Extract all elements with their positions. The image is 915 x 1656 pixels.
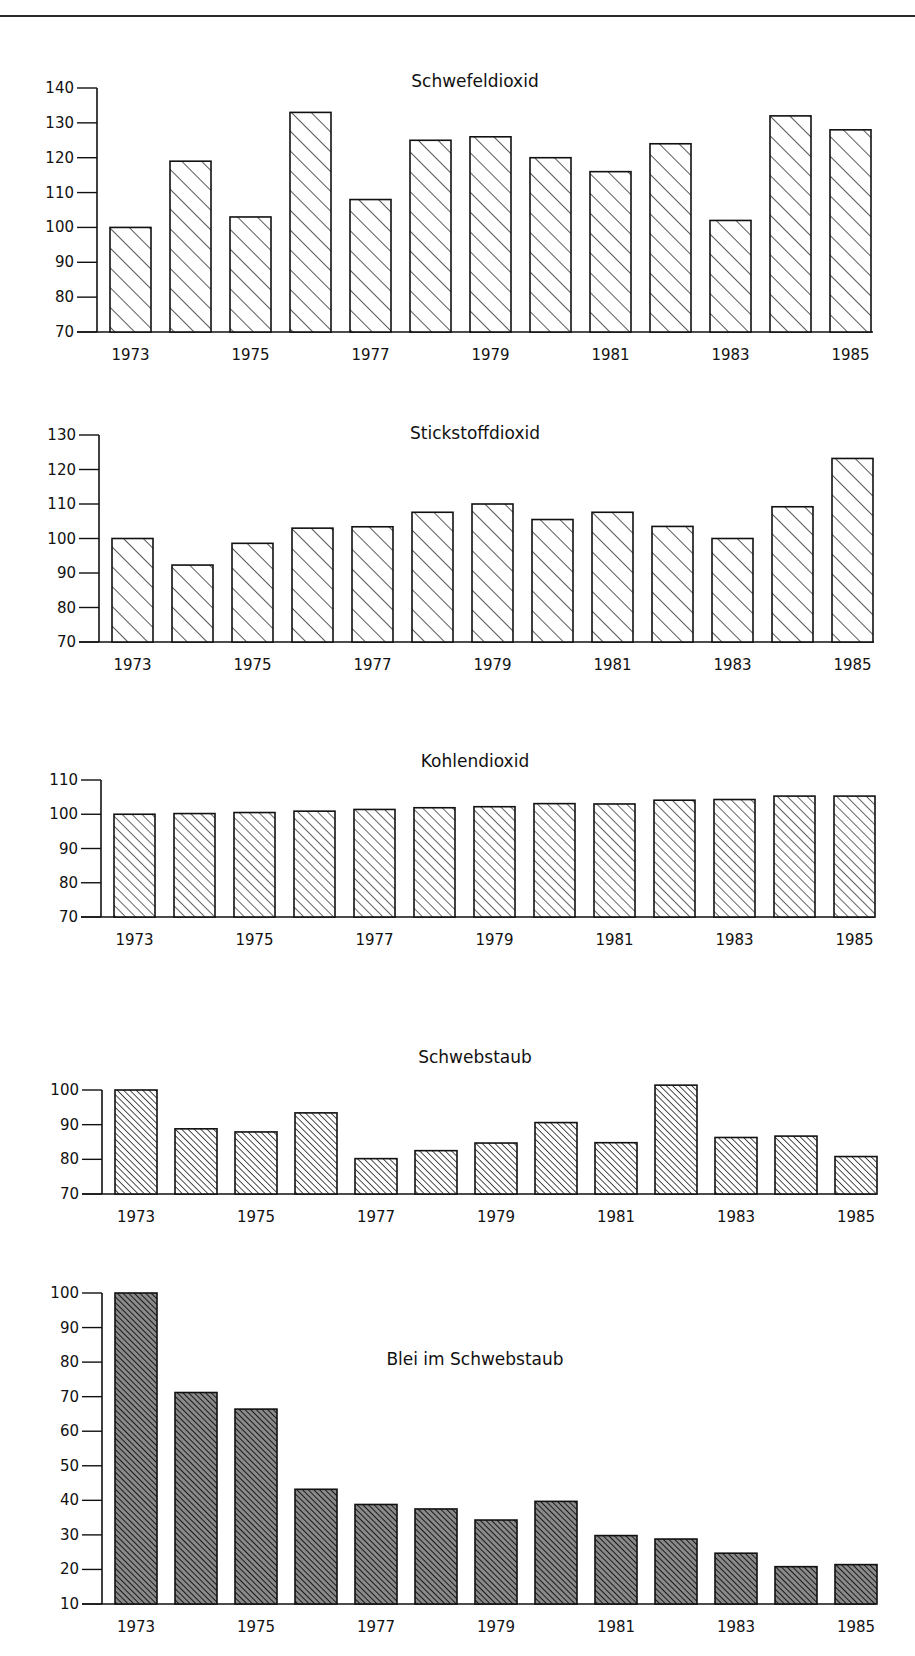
bar-1983 [710,220,751,332]
bar-1974 [175,1393,217,1604]
bar-1977 [355,1159,397,1194]
bar-1973 [112,539,153,643]
x-tick-label: 1983 [717,1618,755,1636]
y-tick-label: 70 [60,1185,79,1203]
x-tick-label: 1975 [233,656,271,674]
y-tick-label: 100 [45,218,74,236]
y-tick-label: 40 [60,1491,79,1509]
bar-1983 [714,800,755,917]
y-tick-label: 90 [59,840,78,858]
y-tick-label: 100 [47,530,76,548]
bar-1984 [770,116,811,332]
x-tick-label: 1983 [715,931,753,949]
y-tick-label: 130 [45,114,74,132]
y-tick-label: 70 [55,323,74,341]
bar-1979 [472,504,513,642]
bar-1983 [715,1553,757,1604]
bar-1979 [474,807,515,917]
bar-1979 [475,1520,517,1604]
chart-schwebstaub: Schwebstaub70809010019731975197719791981… [50,1047,877,1226]
x-tick-label: 1977 [357,1618,395,1636]
bar-1974 [170,161,211,332]
y-tick-label: 60 [60,1422,79,1440]
bar-1976 [295,1489,337,1604]
bar-1982 [650,144,691,332]
y-tick-label: 50 [60,1457,79,1475]
x-tick-label: 1977 [355,931,393,949]
bar-1982 [654,800,695,917]
bar-1985 [835,1565,877,1604]
x-tick-label: 1983 [717,1208,755,1226]
x-tick-label: 1973 [117,1208,155,1226]
x-tick-label: 1985 [837,1618,875,1636]
x-tick-label: 1979 [477,1208,515,1226]
x-tick-label: 1979 [473,656,511,674]
bar-1980 [534,804,575,917]
bar-1982 [655,1539,697,1604]
y-tick-label: 110 [45,184,74,202]
bar-1981 [595,1143,637,1194]
y-tick-label: 80 [59,874,78,892]
y-tick-label: 130 [47,426,76,444]
y-tick-label: 90 [60,1319,79,1337]
bar-1978 [414,808,455,917]
chart-title: Kohlendioxid [421,751,529,771]
bar-1976 [292,528,333,642]
bar-1977 [354,809,395,917]
x-tick-label: 1973 [111,346,149,364]
x-tick-label: 1979 [477,1618,515,1636]
y-tick-label: 90 [60,1116,79,1134]
bar-1975 [234,813,275,917]
bar-1980 [530,158,571,332]
x-tick-label: 1973 [117,1618,155,1636]
bar-1984 [775,1136,817,1194]
y-tick-label: 30 [60,1526,79,1544]
chart-title: Stickstoffdioxid [410,423,540,443]
y-tick-label: 100 [50,1284,79,1302]
x-tick-label: 1985 [835,931,873,949]
bar-1973 [115,1090,157,1194]
y-tick-label: 110 [47,495,76,513]
bar-1974 [172,565,213,642]
bar-1984 [774,796,815,917]
bar-1978 [412,512,453,642]
x-tick-label: 1977 [357,1208,395,1226]
x-tick-label: 1973 [113,656,151,674]
chart-blei: Blei im Schwebstaub102030405060708090100… [50,1284,877,1636]
bar-1973 [110,227,151,332]
y-tick-label: 140 [45,79,74,97]
bar-1976 [294,811,335,917]
bar-1980 [535,1123,577,1194]
y-tick-label: 20 [60,1560,79,1578]
chart-title: Blei im Schwebstaub [386,1349,563,1369]
bar-1984 [772,507,813,642]
bar-1982 [655,1085,697,1194]
x-tick-label: 1983 [713,656,751,674]
y-tick-label: 90 [55,253,74,271]
y-tick-label: 80 [55,288,74,306]
bar-1975 [235,1409,277,1604]
y-tick-label: 110 [49,771,78,789]
bar-1976 [295,1113,337,1194]
bar-1973 [115,1293,157,1604]
x-tick-label: 1981 [593,656,631,674]
bar-1980 [532,520,573,642]
x-tick-label: 1975 [235,931,273,949]
y-tick-label: 10 [60,1595,79,1613]
bar-1985 [832,458,873,642]
y-tick-label: 70 [59,908,78,926]
y-tick-label: 80 [60,1150,79,1168]
y-tick-label: 100 [50,1081,79,1099]
y-tick-label: 120 [47,461,76,479]
bar-1973 [114,814,155,917]
x-tick-label: 1979 [471,346,509,364]
bar-1974 [174,814,215,917]
y-tick-label: 80 [60,1353,79,1371]
bar-1979 [470,137,511,332]
bar-1984 [775,1567,817,1604]
bar-1981 [590,172,631,332]
chart-title: Schwefeldioxid [411,71,538,91]
x-tick-label: 1979 [475,931,513,949]
bar-1977 [352,527,393,642]
charts-canvas: Schwefeldioxid70809010011012013014019731… [0,0,915,1656]
